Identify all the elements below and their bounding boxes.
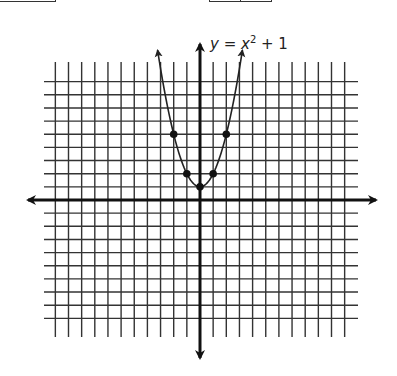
equation-label: y = x2 + 1 xyxy=(210,34,288,53)
data-point xyxy=(196,183,204,191)
data-point xyxy=(183,170,191,178)
data-point xyxy=(209,170,217,178)
data-point xyxy=(170,130,178,138)
data-point xyxy=(223,130,231,138)
coordinate-plane xyxy=(0,0,397,376)
axes xyxy=(28,44,376,358)
